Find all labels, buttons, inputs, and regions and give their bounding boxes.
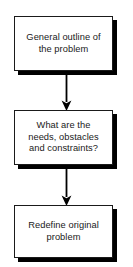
flowchart-node-label: Redefine original problem [24, 220, 103, 243]
flowchart-arrow-2 [58, 168, 75, 206]
flowchart-node-redefine-original-problem: Redefine original problem [14, 205, 113, 258]
flowchart-node-label: What are the needs, obstacles and constr… [24, 120, 103, 155]
flowchart-arrow-1 [58, 74, 75, 111]
flowchart-node-label: General outline of the problem [22, 32, 104, 55]
flowchart-diagram: General outline of the problem What are … [0, 0, 133, 267]
flowchart-node-general-outline: General outline of the problem [14, 16, 113, 71]
flowchart-node-needs-obstacles-constraints: What are the needs, obstacles and constr… [14, 110, 113, 165]
